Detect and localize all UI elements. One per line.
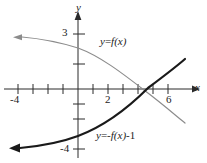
curve-f-rhs: f(x) [111, 35, 126, 47]
x-tick-label-2: 2 [105, 94, 111, 105]
curve-neg-f-annotation: y=-f(x)-1 [96, 130, 135, 141]
y-tick-label-neg4: -4 [60, 143, 69, 154]
curve-neg-f-minus-1-arrowhead [9, 144, 20, 153]
function-graph-figure: y x 3 -4 -4 2 6 y=f(x) y=-f(x)-1 [0, 0, 207, 163]
curve-negf-fx: f(x) [111, 129, 126, 141]
curve-negf-one: 1 [130, 129, 136, 141]
x-axis-label: x [195, 82, 200, 93]
curve-f [22, 37, 185, 123]
y-tick-label-3: 3 [62, 27, 68, 38]
x-tick-label-6: 6 [166, 94, 172, 105]
y-axis-label: y [76, 2, 81, 13]
x-tick-label-neg4: -4 [10, 94, 19, 105]
curve-f-annotation: y=f(x) [100, 36, 126, 47]
y-axis-ticks [73, 34, 85, 149]
curve-f-arrowhead [13, 34, 22, 40]
